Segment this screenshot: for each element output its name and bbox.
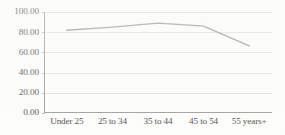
x-tick-label-35-to-44: 35 to 44: [135, 116, 181, 132]
y-tick-label: 0.00: [0, 108, 39, 117]
line-chart: 100.00 80.00 60.00 40.00 20.00 0.00 Unde…: [0, 0, 285, 135]
x-tick-label-25-to-34: 25 to 34: [90, 116, 136, 132]
y-tick-label: 100.00: [0, 7, 39, 16]
y-axis-tick-labels: 100.00 80.00 60.00 40.00 20.00 0.00: [0, 0, 41, 135]
plot-area: [44, 12, 272, 113]
x-axis-category-labels: Under 25 25 to 34 35 to 44 45 to 54 55 y…: [44, 116, 272, 132]
y-tick-label: 60.00: [0, 48, 39, 57]
x-tick-label-45-to-54: 45 to 54: [181, 116, 227, 132]
y-tick-label: 40.00: [0, 68, 39, 77]
y-tick-label: 80.00: [0, 28, 39, 37]
x-tick-label-under-25: Under 25: [44, 116, 90, 132]
x-tick-label-55-years-plus: 55 years+: [226, 116, 272, 132]
axis-lines: [44, 12, 272, 113]
y-tick-label: 20.00: [0, 88, 39, 97]
